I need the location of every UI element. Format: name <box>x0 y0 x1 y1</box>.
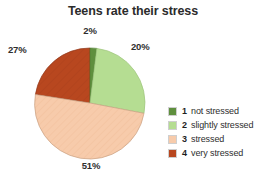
legend-item-not-stressed[interactable]: 1 not stressed <box>168 104 266 118</box>
legend-item-number: 1 <box>182 106 187 116</box>
pie-slice-slightly-stressed[interactable] <box>90 48 145 113</box>
legend-swatch-icon <box>168 135 177 144</box>
slice-label-slightly-stressed: 20% <box>131 41 165 52</box>
legend-item-label: very stressed <box>191 148 243 158</box>
legend-item-stressed[interactable]: 3 stressed <box>168 132 266 146</box>
legend-item-slightly-stressed[interactable]: 2 slightly stressed <box>168 118 266 132</box>
legend-swatch-icon <box>168 121 177 130</box>
legend-item-number: 4 <box>182 148 187 158</box>
legend-swatch-icon <box>168 107 177 116</box>
legend-item-very-stressed[interactable]: 4 very stressed <box>168 146 266 160</box>
page-title: Teens rate their stress <box>0 4 266 18</box>
legend-swatch-icon <box>168 149 177 158</box>
legend-item-number: 3 <box>182 134 187 144</box>
legend-item-label: not stressed <box>191 106 239 116</box>
pie-slice-very-stressed[interactable] <box>35 48 90 103</box>
chart-canvas: Teens rate their stress 2% <box>0 0 266 185</box>
slice-label-stressed: 51% <box>74 160 108 171</box>
legend-item-label: slightly stressed <box>191 120 253 130</box>
slice-label-not-stressed: 2% <box>74 25 106 36</box>
legend-item-number: 2 <box>182 120 187 130</box>
legend-item-label: stressed <box>191 134 224 144</box>
chart-legend: 1 not stressed 2 slightly stressed 3 str… <box>168 104 266 160</box>
slice-label-very-stressed: 27% <box>8 44 42 55</box>
